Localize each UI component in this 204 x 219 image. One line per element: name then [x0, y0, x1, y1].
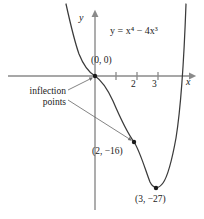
x-axis-label: x [186, 76, 190, 88]
inflection-points-callout: inflection points [2, 86, 66, 108]
point-inflection-2-marker [132, 140, 136, 144]
minimum-point-label: (3, −27) [135, 194, 166, 205]
plot-canvas [0, 0, 204, 219]
y-axis-label: y [79, 12, 83, 24]
point-minimum-marker [154, 186, 158, 190]
function-graph-figure: y x y = x⁴ − 4x³ (0, 0) 2 3 inflection p… [0, 0, 204, 219]
point-origin-marker [93, 74, 97, 78]
x-tick-label-2: 2 [131, 79, 136, 90]
origin-point-label: (0, 0) [91, 55, 112, 66]
equation-label: y = x⁴ − 4x³ [110, 25, 158, 37]
x-tick-label-3: 3 [152, 79, 157, 90]
leader-line-to-origin [68, 78, 92, 90]
inflection-point-2-label: (2, −16) [92, 146, 123, 157]
inflection-callout-line-2: points [2, 97, 66, 108]
inflection-callout-line-1: inflection [2, 86, 66, 97]
